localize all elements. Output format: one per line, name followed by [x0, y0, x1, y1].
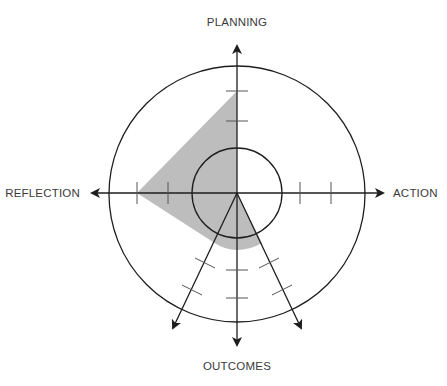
shaded-profile-area	[137, 91, 262, 250]
reflection-cycle-diagram: PLANNING ACTION REFLECTION OUTCOMES	[0, 0, 447, 386]
axis-outcomes-right	[237, 193, 301, 328]
label-outcomes: OUTCOMES	[203, 360, 271, 372]
label-reflection: REFLECTION	[5, 187, 80, 199]
label-planning: PLANNING	[207, 16, 267, 28]
label-action: ACTION	[393, 187, 438, 199]
